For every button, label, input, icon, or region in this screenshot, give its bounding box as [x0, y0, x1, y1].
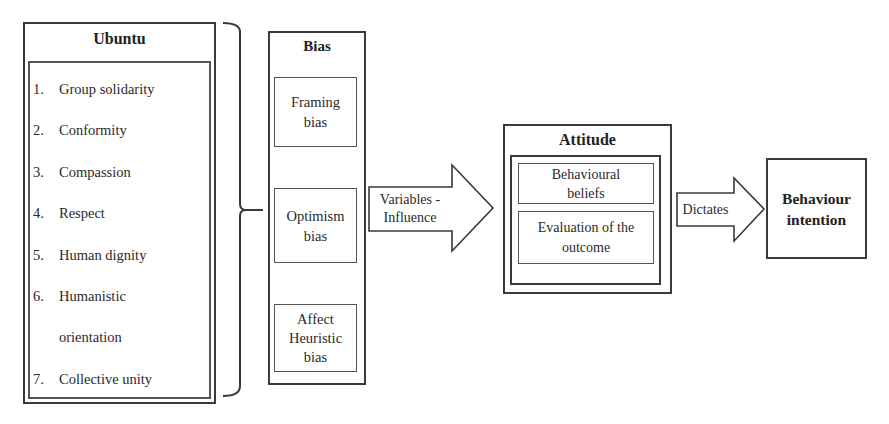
- item-number: 1.: [33, 80, 44, 98]
- optimism-bias-line2: bias: [304, 226, 327, 246]
- behaviour-line2: intention: [787, 209, 846, 230]
- item-text: Human dignity: [59, 246, 146, 264]
- optimism-bias-line1: Optimism: [286, 206, 344, 226]
- framing-bias-line2: bias: [304, 112, 327, 132]
- item-number: 2.: [33, 121, 44, 139]
- item-text: Group solidarity: [59, 80, 154, 98]
- evaluation-outcome-box: Evaluation of the outcome: [518, 211, 654, 264]
- item-text: Conformity: [59, 121, 127, 139]
- framing-bias-box: Framing bias: [274, 77, 357, 147]
- ubuntu-title: Ubuntu: [23, 30, 216, 48]
- item-number: 6.: [33, 287, 44, 305]
- affect-bias-line2: Heuristic: [289, 329, 342, 348]
- item-number: 3.: [33, 163, 44, 181]
- framing-bias-line1: Framing: [291, 92, 340, 112]
- item-number: 4.: [33, 204, 44, 222]
- behavioural-beliefs-box: Behavioural beliefs: [518, 163, 654, 204]
- item-text: Compassion: [59, 163, 131, 181]
- variables-influence-label: Variables - Influence: [369, 187, 451, 231]
- affect-bias-line3: bias: [304, 348, 327, 367]
- beliefs-line2: beliefs: [567, 184, 604, 203]
- ubuntu-list-box: [28, 61, 211, 399]
- bias-title: Bias: [268, 38, 366, 55]
- variables-line2: Influence: [384, 209, 437, 227]
- evaluation-line1: Evaluation of the: [538, 218, 634, 238]
- behaviour-line1: Behaviour: [782, 188, 851, 209]
- variables-line1: Variables -: [380, 191, 440, 209]
- behaviour-intention-box: Behaviour intention: [766, 158, 867, 259]
- dictates-label: Dictates: [677, 193, 734, 226]
- item-text: Humanistic: [59, 287, 126, 305]
- affect-heuristic-bias-box: Affect Heuristic bias: [274, 304, 357, 372]
- affect-bias-line1: Affect: [297, 310, 334, 329]
- beliefs-line1: Behavioural: [552, 165, 620, 184]
- evaluation-line2: outcome: [562, 238, 610, 258]
- item-text: Collective unity: [59, 370, 152, 388]
- brace-connector: [223, 23, 263, 396]
- item-text: orientation: [59, 328, 122, 346]
- item-text: Respect: [59, 204, 105, 222]
- optimism-bias-box: Optimism bias: [274, 188, 357, 263]
- item-number: 5.: [33, 246, 44, 264]
- attitude-title: Attitude: [503, 131, 672, 149]
- item-number: 7.: [33, 370, 44, 388]
